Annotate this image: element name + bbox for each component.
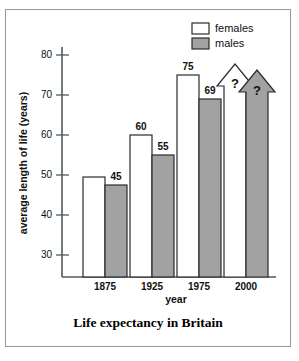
value-label-males-1975: 69	[204, 85, 216, 96]
bar-females-1925	[130, 135, 152, 277]
chart-title: Life expectancy in Britain	[73, 315, 223, 330]
bar-males-1975	[199, 99, 221, 277]
value-label-males-2000: ?	[253, 83, 261, 98]
y-axis: 80 70 60 50 40 30 average length of life…	[17, 47, 69, 277]
y-tick-label-30: 30	[41, 249, 53, 260]
value-label-females-1925: 60	[135, 121, 147, 132]
legend-swatch-males	[192, 38, 209, 49]
legend-label-females: females	[215, 22, 254, 34]
value-label-females-2000: ?	[231, 76, 239, 91]
bar-females-1875	[83, 177, 105, 277]
x-tick-label-1875: 1875	[94, 281, 117, 292]
bar-males-1925	[152, 155, 174, 277]
bar-males-1875	[105, 185, 127, 277]
y-tick-label-80: 80	[41, 49, 53, 60]
bar-group-1975: 75 69	[177, 61, 221, 277]
bar-group-1875: 45	[83, 171, 127, 277]
legend-label-males: males	[215, 37, 245, 49]
y-tick-label-60: 60	[41, 129, 53, 140]
y-tick-label-50: 50	[41, 169, 53, 180]
legend: females males	[192, 22, 254, 49]
x-tick-label-2000: 2000	[235, 281, 258, 292]
value-label-males-1925: 55	[157, 141, 169, 152]
value-label-males-1875: 45	[110, 171, 122, 182]
bar-females-1975	[177, 75, 199, 277]
bar-group-1925: 60 55	[130, 121, 174, 277]
bar-chart: females males 80 70 60 50 40 30 average …	[0, 0, 299, 361]
x-axis: 1875 1925 1975 2000 year	[62, 277, 276, 305]
bar-group-2000: ? ?	[217, 64, 275, 277]
y-tick-label-70: 70	[41, 89, 53, 100]
x-tick-label-1925: 1925	[141, 281, 164, 292]
x-axis-title: year	[165, 293, 187, 305]
y-tick-label-40: 40	[41, 209, 53, 220]
value-label-females-1975: 75	[182, 61, 194, 72]
figure-container: females males 80 70 60 50 40 30 average …	[0, 0, 299, 361]
y-axis-title: average length of life (years)	[17, 92, 29, 234]
legend-swatch-females	[192, 23, 209, 34]
x-tick-label-1975: 1975	[188, 281, 211, 292]
